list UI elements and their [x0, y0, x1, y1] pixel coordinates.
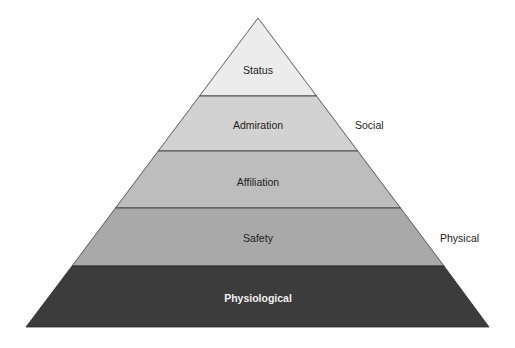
level-status-shape [200, 18, 317, 96]
level-admiration-label: Admiration [233, 119, 283, 131]
level-physiological-label: Physiological [224, 292, 292, 304]
side-label-social: Social [355, 119, 384, 131]
side-label-physical: Physical [440, 232, 479, 244]
level-status-label: Status [243, 64, 273, 76]
level-affiliation-label: Affiliation [237, 176, 279, 188]
level-safety-label: Safety [243, 232, 273, 244]
